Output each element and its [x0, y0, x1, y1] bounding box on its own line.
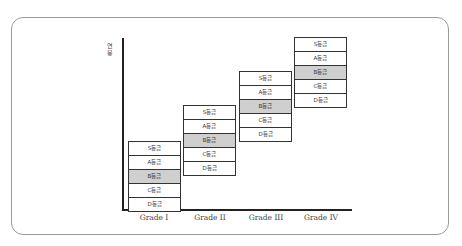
grade-cell-s: S등급 [129, 142, 180, 156]
grade-cell-s: S등급 [184, 106, 235, 120]
grade-cell-d: D등급 [129, 198, 180, 211]
grade-cell-d: D등급 [295, 94, 346, 107]
grade-column-4: S등급 A등급 B등급 C등급 D등급 [294, 37, 347, 108]
x-tick-grade-3: Grade III [236, 213, 296, 222]
grade-cell-a: A등급 [295, 52, 346, 66]
grade-cell-b: B등급 [129, 170, 180, 184]
grade-cell-s: S등급 [240, 72, 291, 86]
grade-column-1: S등급 A등급 B등급 C등급 D등급 [128, 141, 181, 212]
x-tick-grade-4: Grade IV [291, 213, 351, 222]
grade-cell-d: D등급 [240, 128, 291, 141]
grade-cell-b: B등급 [184, 134, 235, 148]
grade-cell-b: B등급 [240, 100, 291, 114]
grade-cell-c: C등급 [295, 80, 346, 94]
x-tick-grade-2: Grade II [180, 213, 240, 222]
grade-cell-c: C등급 [240, 114, 291, 128]
grade-cell-a: A등급 [129, 156, 180, 170]
y-axis-label: 연봉 [105, 42, 115, 56]
x-tick-grade-1: Grade I [124, 213, 184, 222]
grade-cell-d: D등급 [184, 162, 235, 175]
grade-cell-a: A등급 [184, 120, 235, 134]
grade-column-3: S등급 A등급 B등급 C등급 D등급 [239, 71, 292, 142]
grade-column-2: S등급 A등급 B등급 C등급 D등급 [183, 105, 236, 176]
grade-cell-s: S등급 [295, 38, 346, 52]
grade-cell-a: A등급 [240, 86, 291, 100]
grade-cell-c: C등급 [184, 148, 235, 162]
grade-cell-c: C등급 [129, 184, 180, 198]
grade-cell-b: B등급 [295, 66, 346, 80]
y-axis [122, 38, 124, 211]
